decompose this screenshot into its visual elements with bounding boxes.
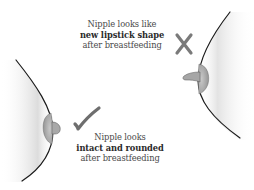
correct-latch-caption: Nipple looks intact and rounded after br… [72, 132, 168, 164]
breastfeeding-nipple-diagram: Nipple looks like new lipstick shape aft… [0, 0, 254, 190]
caption-line: Nipple looks like [76, 19, 168, 30]
caption-line: after breastfeeding [76, 40, 168, 51]
caption-emphasis: new lipstick shape [76, 30, 168, 41]
cross-mark-icon [177, 35, 191, 53]
rounded-nipple [52, 122, 60, 134]
right-breast-incorrect [183, 12, 254, 140]
flattened-nipple [183, 72, 200, 82]
caption-line: Nipple looks [72, 132, 168, 143]
check-mark-icon [75, 108, 99, 129]
left-breast-correct [0, 60, 60, 182]
caption-line: after breastfeeding [72, 153, 168, 164]
caption-emphasis: intact and rounded [72, 143, 168, 154]
incorrect-latch-caption: Nipple looks like new lipstick shape aft… [76, 19, 168, 51]
